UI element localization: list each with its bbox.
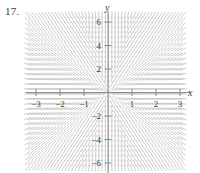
slope-mark	[44, 58, 50, 61]
slope-mark	[44, 47, 50, 51]
slope-mark	[167, 58, 173, 61]
slope-mark	[28, 38, 34, 42]
slope-mark	[25, 48, 31, 51]
slope-mark	[54, 122, 60, 126]
slope-mark	[177, 58, 183, 61]
slope-mark	[154, 68, 160, 71]
slope-mark	[167, 53, 173, 57]
slope-mark	[25, 146, 31, 150]
slope-mark	[167, 48, 173, 52]
slope-mark	[44, 136, 50, 140]
slope-mark	[76, 72, 82, 76]
slope-mark	[31, 136, 37, 140]
slope-mark	[174, 43, 180, 47]
slope-mark	[34, 58, 40, 61]
slope-mark	[141, 73, 147, 76]
slope-mark	[180, 141, 186, 145]
slope-mark	[44, 127, 50, 131]
slope-mark	[31, 132, 37, 135]
slope-mark	[34, 53, 40, 56]
slope-mark	[70, 67, 76, 71]
x-tick-label: −2	[55, 99, 65, 109]
slope-mark	[47, 53, 53, 57]
slope-mark	[25, 137, 31, 140]
slope-mark	[64, 62, 70, 66]
slope-mark	[38, 43, 44, 47]
slope-mark	[174, 136, 180, 140]
slope-mark	[157, 122, 163, 126]
slope-mark	[51, 52, 57, 56]
slope-mark	[149, 165, 152, 171]
slope-mark	[51, 131, 57, 135]
slope-mark	[148, 62, 154, 66]
slope-mark	[173, 122, 179, 125]
slope-mark	[34, 141, 40, 145]
slope-mark	[145, 62, 151, 66]
slope-mark	[31, 146, 37, 150]
y-tick-label: 6	[97, 17, 102, 27]
slope-mark	[24, 122, 31, 125]
slope-mark	[180, 43, 186, 47]
slope-mark	[151, 117, 157, 120]
slope-mark	[161, 131, 167, 135]
slope-mark	[34, 43, 40, 47]
slope-mark	[25, 33, 31, 37]
slope-mark	[155, 165, 159, 171]
slope-mark	[51, 127, 57, 131]
slope-mark	[161, 52, 167, 56]
slope-mark	[180, 53, 186, 56]
slope-mark	[167, 122, 173, 125]
slope-mark	[41, 127, 47, 130]
slope-mark	[38, 48, 44, 52]
slope-mark	[41, 122, 47, 125]
slope-mark	[31, 53, 37, 56]
slope-mark	[60, 62, 66, 66]
slope-mark	[67, 67, 73, 71]
x-axis-label: x	[187, 87, 193, 98]
slope-mark	[174, 53, 180, 56]
slope-mark	[128, 77, 134, 80]
slope-mark	[112, 97, 117, 102]
slope-mark	[141, 67, 147, 71]
y-tick-label: −2	[91, 111, 101, 121]
slope-mark	[161, 58, 167, 62]
slope-mark	[170, 127, 176, 130]
slope-mark	[141, 112, 147, 116]
slope-mark	[154, 63, 160, 66]
y-tick-label: 2	[97, 64, 102, 74]
slope-field-plot: −3−2−1123642−2−4−6 x y	[0, 0, 200, 173]
slope-mark	[60, 68, 66, 71]
slope-mark	[167, 136, 173, 140]
slope-mark	[144, 112, 150, 115]
x-tick-label: 1	[130, 99, 135, 109]
slope-mark	[54, 117, 60, 120]
slope-mark	[161, 117, 167, 120]
y-tick-label: −4	[91, 135, 101, 145]
slope-mark	[161, 63, 167, 66]
slope-mark	[145, 117, 151, 121]
slope-mark	[158, 126, 164, 130]
slope-mark	[37, 127, 43, 130]
axes	[26, 11, 191, 173]
slope-mark	[100, 96, 105, 101]
slope-mark	[177, 136, 183, 140]
slope-mark	[146, 165, 149, 171]
slope-mark	[37, 58, 43, 61]
slope-mark	[61, 165, 65, 171]
slope-mark	[135, 72, 141, 76]
slope-mark	[24, 132, 30, 135]
slope-mark	[63, 112, 69, 115]
slope-mark	[51, 58, 57, 62]
slope-mark	[174, 127, 180, 130]
slope-mark	[24, 127, 30, 130]
slope-mark	[116, 101, 121, 106]
slope-mark	[151, 122, 157, 126]
y-tick-label: 4	[97, 41, 102, 51]
slope-mark	[177, 141, 183, 145]
slope-mark	[164, 122, 170, 125]
slope-mark	[28, 137, 34, 141]
slope-mark	[34, 132, 40, 136]
slope-mark	[109, 87, 114, 92]
slope-mark	[54, 63, 60, 66]
slope-mark	[67, 117, 73, 121]
